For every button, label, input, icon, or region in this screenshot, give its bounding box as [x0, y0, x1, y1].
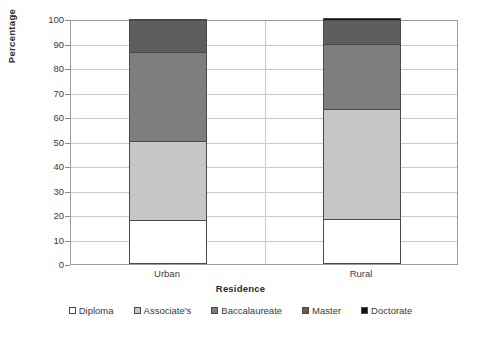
y-axis-tick-mark	[65, 20, 70, 21]
bar-segment-rural-associate-s[interactable]	[323, 109, 401, 219]
bar-rural[interactable]	[323, 19, 401, 264]
legend-label: Master	[312, 305, 341, 316]
x-axis-title: Residence	[0, 283, 481, 294]
y-axis-tick-mark	[65, 167, 70, 168]
legend-swatch-icon	[69, 307, 76, 314]
y-axis-tick-label: 0	[36, 260, 64, 270]
x-axis-category-label: Urban	[112, 268, 222, 279]
y-axis-tick-label: 30	[36, 187, 64, 197]
y-axis-tick-label: 10	[36, 236, 64, 246]
legend-label: Diploma	[79, 305, 114, 316]
legend-label: Associate's	[144, 305, 192, 316]
y-axis-tick-label: 20	[36, 211, 64, 221]
legend-item-associate-s[interactable]: Associate's	[134, 305, 192, 316]
y-axis-tick-label: 60	[36, 113, 64, 123]
category-separator	[265, 21, 266, 264]
stacked-bar-chart: Percentage 0102030405060708090100 Reside…	[0, 0, 481, 338]
bar-segment-rural-master[interactable]	[323, 20, 401, 44]
legend-swatch-icon	[211, 307, 218, 314]
y-axis-tick-mark	[65, 216, 70, 217]
legend-swatch-icon	[134, 307, 141, 314]
y-axis-tick-label: 40	[36, 162, 64, 172]
legend-swatch-icon	[361, 307, 368, 314]
bar-urban[interactable]	[129, 19, 207, 264]
y-axis-tick-mark	[65, 69, 70, 70]
y-axis-tick-label: 80	[36, 64, 64, 74]
y-axis-tick-mark	[65, 45, 70, 46]
bar-segment-urban-associate-s[interactable]	[129, 141, 207, 220]
bar-segment-urban-diploma[interactable]	[129, 220, 207, 264]
bar-segment-rural-baccalaureate[interactable]	[323, 44, 401, 109]
y-axis-tick-mark	[65, 241, 70, 242]
legend-swatch-icon	[302, 307, 309, 314]
y-axis-tick-label: 90	[36, 40, 64, 50]
legend-item-master[interactable]: Master	[302, 305, 341, 316]
bar-segment-urban-baccalaureate[interactable]	[129, 52, 207, 141]
legend-item-baccalaureate[interactable]: Baccalaureate	[211, 305, 282, 316]
legend-label: Baccalaureate	[221, 305, 282, 316]
bar-segment-urban-doctorate[interactable]	[129, 19, 207, 20]
y-axis-title: Percentage	[6, 0, 17, 96]
legend-item-diploma[interactable]: Diploma	[69, 305, 114, 316]
legend-label: Doctorate	[371, 305, 412, 316]
y-axis-tick-label: 50	[36, 138, 64, 148]
x-axis-category-label: Rural	[306, 268, 416, 279]
chart-legend: DiplomaAssociate'sBaccalaureateMasterDoc…	[0, 305, 481, 316]
y-axis-tick-label: 100	[36, 15, 64, 25]
y-axis-tick-mark	[65, 143, 70, 144]
y-axis-tick-mark	[65, 118, 70, 119]
bar-segment-rural-doctorate[interactable]	[323, 18, 401, 19]
legend-item-doctorate[interactable]: Doctorate	[361, 305, 412, 316]
y-axis-tick-label: 70	[36, 89, 64, 99]
y-axis-tick-mark	[65, 265, 70, 266]
bar-segment-rural-diploma[interactable]	[323, 219, 401, 264]
y-axis-tick-mark	[65, 94, 70, 95]
y-axis-tick-mark	[65, 192, 70, 193]
plot-area	[70, 20, 458, 265]
bar-segment-urban-master[interactable]	[129, 20, 207, 52]
